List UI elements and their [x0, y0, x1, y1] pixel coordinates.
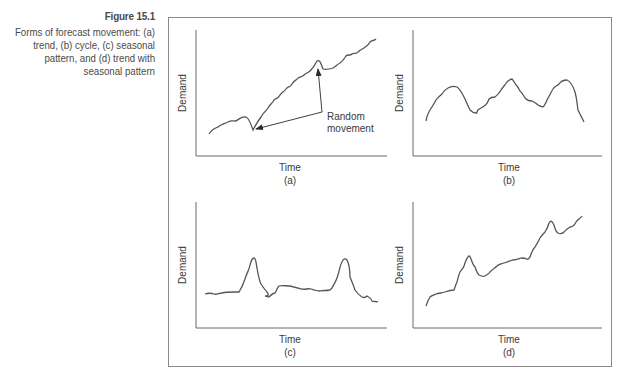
- y-axis: [413, 202, 602, 328]
- panel-b: Time (b) Demand: [394, 30, 602, 186]
- annotation-movement: movement: [327, 123, 374, 134]
- random-movement-arrow-bottom: [256, 112, 322, 129]
- panel-label: (b): [503, 175, 515, 186]
- random-movement-arrow-top: [318, 69, 322, 112]
- figure-plots: Random movement Time (a) Demand Time (b)…: [0, 0, 634, 385]
- y-axis-label: Demand: [394, 74, 405, 112]
- y-axis-label: Demand: [394, 246, 405, 284]
- panel-label: (d): [503, 347, 515, 358]
- demand-line: [205, 258, 378, 302]
- panel-c: Time (c) Demand: [177, 202, 387, 358]
- panel-d: Time (d) Demand: [394, 202, 602, 358]
- demand-line: [426, 216, 582, 306]
- y-axis: [196, 30, 387, 156]
- y-axis-label: Demand: [177, 246, 188, 284]
- panel-a: Random movement Time (a) Demand: [177, 30, 387, 186]
- demand-line: [426, 79, 584, 122]
- y-axis: [196, 202, 387, 328]
- y-axis-label: Demand: [177, 74, 188, 112]
- x-axis-label: Time: [498, 334, 520, 345]
- panel-label: (c): [284, 347, 296, 358]
- y-axis: [413, 30, 602, 156]
- x-axis-label: Time: [279, 334, 301, 345]
- x-axis-label: Time: [498, 162, 520, 173]
- panel-label: (a): [284, 175, 296, 186]
- x-axis-label: Time: [279, 162, 301, 173]
- annotation-random: Random: [327, 111, 365, 122]
